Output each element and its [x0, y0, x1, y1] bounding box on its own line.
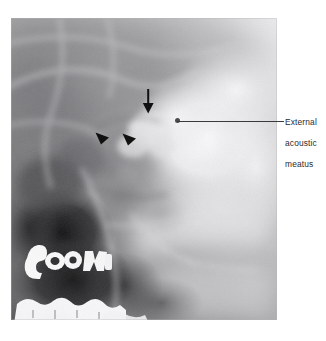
- radiograph-image: [11, 18, 277, 320]
- label-line-3: meatus: [285, 159, 326, 170]
- label-external-acoustic-meatus: External acoustic meatus: [285, 106, 326, 180]
- figure-container: External acoustic meatus: [0, 0, 326, 341]
- arrowhead-icon: [122, 132, 137, 146]
- arrow-down-icon: [141, 89, 155, 114]
- label-line-2: acoustic: [285, 138, 326, 149]
- label-line-1: External: [285, 117, 326, 128]
- figure-caption: [22, 333, 302, 341]
- arrowhead-icon: [95, 131, 110, 145]
- leader-line-external-acoustic-meatus: [177, 121, 284, 122]
- radiograph-canvas: [11, 18, 277, 320]
- film-grain: [11, 18, 277, 320]
